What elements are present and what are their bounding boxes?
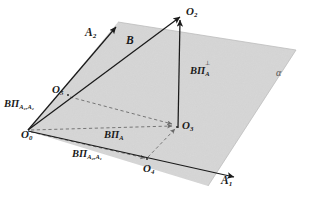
projection-label-a-perp: BΠA⊥ [190,66,210,77]
point-label-o4: O4 [143,163,154,176]
vector-label-b: B [126,35,134,47]
vector-label-a1: A1 [221,175,232,188]
projection-label-a2-a1: BΠA₂,A₁ [72,149,102,160]
point-label-o0: O0 [21,129,32,142]
point-o3-dot [176,126,178,128]
projection-label-a1-a2: BΠA₁,A₂ [4,99,34,110]
projection-label-a: BΠA [104,130,124,141]
point-label-o2: O2 [186,6,197,19]
diagram-svg [0,0,309,199]
plane-label-alpha: α [276,68,281,78]
point-label-o5: O5 [52,84,63,97]
vector-label-a2: A2 [85,27,96,40]
point-o4-dot [146,158,148,160]
point-label-o3: O3 [182,120,193,133]
point-o5-dot [67,94,69,96]
figure-canvas: O0 O2 O3 O4 O5 A2 A1 B BΠA₁,A₂ BΠA₂,A₁ B… [0,0,309,199]
